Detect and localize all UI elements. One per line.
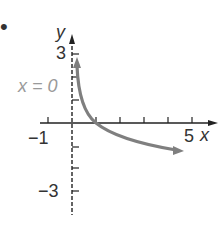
bullet: •	[0, 14, 8, 40]
x-tick-label-left: −1	[28, 128, 49, 149]
graph-plot	[0, 0, 224, 232]
x-tick-label-right: 5	[184, 126, 194, 147]
y-axis-arrow-icon	[69, 34, 75, 44]
asymptote-label: x = 0	[18, 76, 58, 97]
x-ticks	[48, 117, 192, 123]
function-curve	[77, 66, 176, 150]
x-axis-arrow-icon	[208, 120, 218, 126]
y-tick-label-top: 3	[56, 43, 66, 64]
curve-arrow-up-icon	[73, 57, 81, 68]
x-axis-label: x	[200, 125, 209, 146]
y-tick-label-bottom: −3	[38, 181, 59, 202]
y-axis-label: y	[56, 22, 65, 43]
curve-arrow-right-icon	[173, 146, 184, 155]
